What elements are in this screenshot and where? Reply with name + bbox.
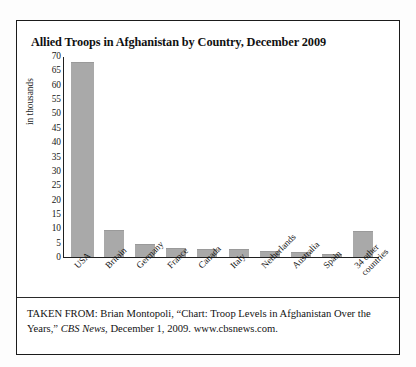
bar-slot [98,57,129,257]
figure-page: Allied Troops in Afghanistan by Country,… [0,0,416,367]
figure-frame: Allied Troops in Afghanistan by Country,… [16,20,400,355]
y-axis-tick-label: 35 [52,153,61,162]
bar-series [64,57,379,257]
y-axis-tick-label: 70 [52,52,61,61]
bar [71,62,94,257]
y-axis-tick-label: 60 [52,81,61,90]
y-axis-tick-label: 0 [56,253,61,262]
source-publication: CBS News [61,323,105,334]
source-suffix: , December 1, 2009. www.cbsnews.com. [105,323,278,334]
y-axis-tick-label: 25 [52,182,61,191]
y-axis-tick-label: 40 [52,138,61,147]
chart-area: in thousands 706560555045403530252015105… [17,57,401,295]
y-axis-tick-label: 5 [56,239,61,248]
bar-slot [254,57,285,257]
y-axis-label: in thousands [25,111,35,125]
bar-slot [67,57,98,257]
y-axis-ticks: 7065605550454035302520151050 [39,57,61,260]
y-axis-tick-label: 10 [52,225,61,234]
page-title: Allied Troops in Afghanistan by Country,… [31,35,387,50]
y-axis-tick-label: 65 [52,67,61,76]
y-axis-label-text: in thousands [25,111,35,125]
plot-area [63,57,379,258]
bar-slot [317,57,348,257]
bar-slot [285,57,316,257]
y-axis-tick-label: 50 [52,110,61,119]
bar-slot [348,57,379,257]
source-caption: TAKEN FROM: Brian Montopoli, “Chart: Tro… [27,306,393,336]
divider [17,297,399,298]
y-axis-tick-label: 55 [52,95,61,104]
y-axis-tick-label: 20 [52,196,61,205]
y-axis-tick-label: 45 [52,124,61,133]
y-axis-tick-label: 30 [52,167,61,176]
bar-slot [161,57,192,257]
bar-slot [129,57,160,257]
y-axis-tick-label: 15 [52,210,61,219]
bar-slot [192,57,223,257]
bar-slot [223,57,254,257]
